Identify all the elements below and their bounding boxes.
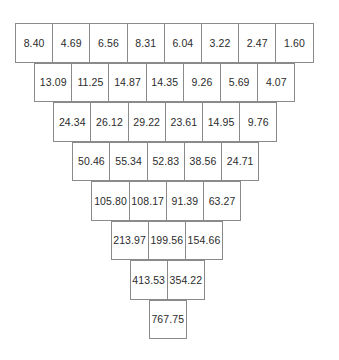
pyramid-cell: 1.60 bbox=[275, 23, 313, 63]
pyramid-row: 105.80108.1791.3963.27 bbox=[91, 181, 241, 221]
pyramid-cell: 50.46 bbox=[72, 142, 110, 182]
pyramid-row: 213.97199.56154.66 bbox=[111, 221, 224, 261]
pyramid-cell: 413.53 bbox=[130, 260, 168, 300]
pyramid-cell: 8.40 bbox=[15, 23, 53, 63]
pyramid-cell: 14.95 bbox=[202, 102, 240, 142]
pyramid-row: 50.4655.3452.8338.5624.71 bbox=[72, 142, 259, 182]
pyramid-cell: 9.26 bbox=[183, 63, 221, 103]
pyramid-cell: 6.04 bbox=[164, 23, 202, 63]
pyramid-cell: 26.12 bbox=[90, 102, 128, 142]
pyramid-row: 24.3426.1229.2223.6114.959.76 bbox=[53, 102, 277, 142]
pyramid-cell: 63.27 bbox=[203, 181, 241, 221]
pyramid-cell: 91.39 bbox=[166, 181, 204, 221]
pyramid-cell: 14.87 bbox=[108, 63, 146, 103]
pyramid-cell: 4.07 bbox=[257, 63, 295, 103]
pyramid-cell: 24.71 bbox=[221, 142, 259, 182]
number-pyramid-diagram: 8.404.696.568.316.043.222.471.6013.0911.… bbox=[0, 0, 339, 360]
pyramid-row: 413.53354.22 bbox=[130, 260, 205, 300]
pyramid-cell: 354.22 bbox=[167, 260, 205, 300]
pyramid-cell: 154.66 bbox=[185, 221, 223, 261]
pyramid-row: 767.75 bbox=[149, 300, 187, 340]
pyramid-cell: 5.69 bbox=[220, 63, 258, 103]
pyramid-cell: 108.17 bbox=[129, 181, 167, 221]
pyramid-cell: 199.56 bbox=[148, 221, 186, 261]
pyramid-cell: 14.35 bbox=[146, 63, 184, 103]
pyramid-cell: 8.31 bbox=[127, 23, 165, 63]
pyramid-cell: 767.75 bbox=[149, 300, 187, 340]
pyramid-cell: 29.22 bbox=[128, 102, 166, 142]
pyramid-row: 8.404.696.568.316.043.222.471.60 bbox=[15, 23, 314, 63]
pyramid-cell: 2.47 bbox=[238, 23, 276, 63]
pyramid-cell: 4.69 bbox=[52, 23, 90, 63]
pyramid-row: 13.0911.2514.8714.359.265.694.07 bbox=[34, 63, 295, 103]
pyramid-cell: 3.22 bbox=[201, 23, 239, 63]
pyramid-cell: 38.56 bbox=[184, 142, 222, 182]
pyramid-cell: 105.80 bbox=[91, 181, 129, 221]
pyramid-cell: 11.25 bbox=[71, 63, 109, 103]
pyramid-cell: 9.76 bbox=[239, 102, 277, 142]
pyramid-cell: 213.97 bbox=[111, 221, 149, 261]
pyramid-cell: 6.56 bbox=[89, 23, 127, 63]
pyramid-cell: 52.83 bbox=[147, 142, 185, 182]
pyramid-cell: 24.34 bbox=[53, 102, 91, 142]
pyramid-cell: 13.09 bbox=[34, 63, 72, 103]
pyramid-cell: 55.34 bbox=[109, 142, 147, 182]
pyramid-cell: 23.61 bbox=[165, 102, 203, 142]
